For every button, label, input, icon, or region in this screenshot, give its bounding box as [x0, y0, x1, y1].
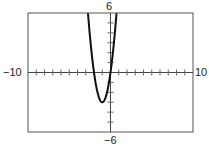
y-min-label: −6: [104, 135, 117, 146]
x-min-label: −10: [3, 67, 22, 78]
parabola-curve: [88, 13, 117, 102]
graph-plot: [0, 0, 209, 150]
y-max-label: 6: [106, 1, 112, 12]
x-max-label: 10: [195, 67, 207, 78]
